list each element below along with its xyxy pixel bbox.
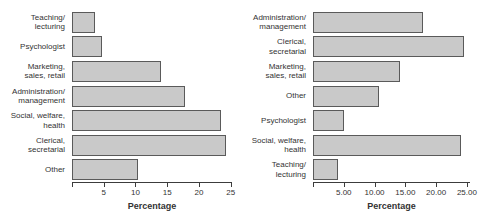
chart-row: Social, welfare, health (246, 133, 470, 158)
bar (72, 36, 102, 57)
axis-tick (167, 183, 168, 187)
bar (313, 135, 461, 156)
axis-tick (344, 183, 345, 187)
axis-tick (199, 183, 200, 187)
axis-tick (231, 183, 232, 187)
chart-row: Administration/ management (246, 10, 470, 35)
chart-rows: Teaching/ lecturingPsychologistMarketing… (0, 10, 232, 182)
category-label: Other (246, 84, 311, 109)
axis-tick (72, 183, 73, 187)
axis-tick (104, 183, 105, 187)
bar (313, 61, 400, 82)
axis-tick (135, 183, 136, 187)
tick-label: 20.00 (426, 188, 446, 197)
chart-row: Psychologist (0, 35, 232, 60)
tick-label: 10.00 (365, 188, 385, 197)
x-axis: 5.0010.0015.0020.0025.00 (313, 182, 470, 200)
category-label: Marketing, sales, retail (246, 59, 311, 84)
category-label: Clerical, secretarial (246, 35, 311, 60)
chart-left: Teaching/ lecturingPsychologistMarketing… (0, 0, 246, 222)
bar-area (72, 10, 232, 35)
x-axis-title: Percentage (72, 201, 232, 211)
bar (72, 12, 95, 33)
axis-tick (467, 183, 468, 187)
bar-area (313, 108, 470, 133)
bar (72, 135, 226, 156)
category-label: Marketing, sales, retail (0, 59, 70, 84)
bar (72, 61, 161, 82)
bar (72, 86, 185, 107)
bar-area (313, 157, 470, 182)
category-label: Administration/ management (246, 10, 311, 35)
category-label: Other (0, 157, 70, 182)
category-label: Psychologist (246, 108, 311, 133)
axis-tick (313, 183, 314, 187)
category-label: Teaching/ lecturing (246, 157, 311, 182)
dual-bar-chart-figure: Teaching/ lecturingPsychologistMarketing… (0, 0, 491, 222)
bar-area (313, 59, 470, 84)
bar-area (72, 59, 232, 84)
chart-row: Administration/ management (0, 84, 232, 109)
bar (72, 110, 221, 131)
tick-label: 5 (102, 188, 106, 197)
x-axis-title: Percentage (313, 201, 470, 211)
chart-row: Psychologist (246, 108, 470, 133)
bar-area (313, 84, 470, 109)
category-label: Administration/ management (0, 84, 70, 109)
chart-row: Other (0, 157, 232, 182)
chart-row: Marketing, sales, retail (246, 59, 470, 84)
chart-row: Teaching/ lecturing (246, 157, 470, 182)
tick-label: 5.00 (336, 188, 352, 197)
axis-tick (405, 183, 406, 187)
chart-row: Clerical, secretarial (246, 35, 470, 60)
chart-row: Teaching/ lecturing (0, 10, 232, 35)
bar-area (72, 84, 232, 109)
tick-label: 25.00 (457, 188, 477, 197)
chart-row: Social, welfare, health (0, 108, 232, 133)
x-axis: 510152025 (72, 182, 232, 200)
bar-area (313, 133, 470, 158)
chart-rows: Administration/ managementClerical, secr… (246, 10, 470, 182)
bar (313, 159, 338, 180)
axis-tick (436, 183, 437, 187)
tick-label: 10 (131, 188, 140, 197)
bar (313, 36, 464, 57)
tick-label: 25 (226, 188, 235, 197)
bar-area (313, 35, 470, 60)
bar (313, 86, 379, 107)
category-label: Teaching/ lecturing (0, 10, 70, 35)
chart-row: Marketing, sales, retail (0, 59, 232, 84)
bar (313, 12, 423, 33)
category-label: Social, welfare, health (246, 133, 311, 158)
axis-tick (375, 183, 376, 187)
bar-area (313, 10, 470, 35)
bar (313, 110, 344, 131)
chart-right: Administration/ managementClerical, secr… (246, 0, 491, 222)
category-label: Psychologist (0, 35, 70, 60)
chart-row: Clerical, secretarial (0, 133, 232, 158)
chart-row: Other (246, 84, 470, 109)
tick-label: 15.00 (395, 188, 415, 197)
bar-area (72, 133, 232, 158)
tick-label: 15 (163, 188, 172, 197)
bar (72, 159, 138, 180)
category-label: Social, welfare, health (0, 108, 70, 133)
bar-area (72, 35, 232, 60)
tick-label: 20 (195, 188, 204, 197)
bar-area (72, 108, 232, 133)
bar-area (72, 157, 232, 182)
category-label: Clerical, secretarial (0, 133, 70, 158)
